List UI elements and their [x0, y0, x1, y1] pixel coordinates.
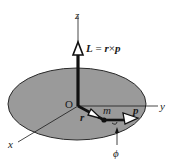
- L-vector-arrowhead-icon: [73, 42, 83, 55]
- equals-sign: =: [93, 42, 105, 54]
- p-term: p: [114, 42, 121, 54]
- phi-label: ϕ: [113, 147, 119, 159]
- y-axis-label: y: [159, 100, 165, 112]
- p-vector-label: p: [132, 104, 139, 116]
- x-axis-label: x: [7, 138, 13, 150]
- L-equation: L = r×p: [85, 42, 121, 54]
- origin-label: O: [65, 98, 73, 110]
- mass-label: m: [103, 104, 111, 116]
- z-axis-label: z: [74, 9, 80, 21]
- angular-momentum-diagram: z y x O L = r×p r m p ϕ: [0, 0, 173, 163]
- r-vector-label: r: [80, 111, 85, 123]
